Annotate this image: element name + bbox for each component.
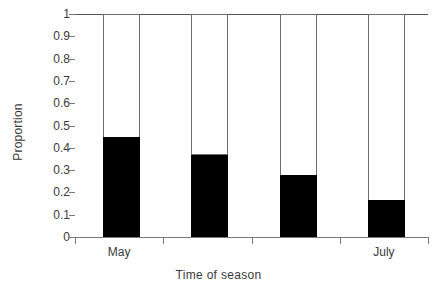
y-axis-tick-mark <box>69 192 75 193</box>
y-axis-tick-label: 0 <box>40 230 70 244</box>
y-axis-tick-mark <box>69 126 75 127</box>
y-axis-tick-mark <box>69 59 75 60</box>
x-axis-title: Time of season <box>0 268 437 282</box>
y-axis-tick-mark <box>69 148 75 149</box>
y-axis-tick-label: 0.4 <box>40 141 70 155</box>
y-axis-tick-mark <box>69 215 75 216</box>
bar-segment-lower <box>103 137 140 237</box>
y-axis-tick-label: 1 <box>40 7 70 21</box>
x-axis-tick-mark <box>163 238 164 244</box>
y-axis-tick-mark <box>69 81 75 82</box>
bar-segment-lower <box>280 175 317 237</box>
x-axis-tick-mark <box>340 238 341 244</box>
y-axis-title: Proportion <box>11 72 25 192</box>
bar-segment-upper <box>103 14 140 138</box>
x-axis-tick-mark <box>428 238 429 244</box>
y-axis-tick-label: 0.9 <box>40 29 70 43</box>
y-axis-tick-label: 0.8 <box>40 52 70 66</box>
bar-segment-upper <box>191 14 228 155</box>
x-axis-tick-label: July <box>373 245 394 259</box>
stacked-bar <box>191 14 228 237</box>
y-axis-tick-label: 0.6 <box>40 96 70 110</box>
x-axis-tick-mark <box>75 238 76 244</box>
x-axis-tick-mark <box>252 238 253 244</box>
y-axis-tick-mark <box>69 36 75 37</box>
y-axis-tick-labels: 00.10.20.30.40.50.60.70.80.91 <box>38 0 70 291</box>
bar-segment-upper <box>280 14 317 176</box>
plot-area <box>75 14 428 237</box>
y-axis-tick-mark <box>69 170 75 171</box>
y-axis-tick-label: 0.3 <box>40 163 70 177</box>
stacked-bar <box>368 14 405 237</box>
stacked-bar <box>280 14 317 237</box>
bar-segment-lower <box>368 200 405 237</box>
x-axis-tick-label: May <box>108 245 131 259</box>
y-axis-tick-mark <box>69 14 75 15</box>
chart-figure: Proportion 00.10.20.30.40.50.60.70.80.91… <box>0 0 437 291</box>
y-axis-tick-mark <box>69 103 75 104</box>
y-axis-tick-label: 0.5 <box>40 119 70 133</box>
stacked-bar <box>103 14 140 237</box>
y-axis-tick-label: 0.1 <box>40 208 70 222</box>
bar-segment-upper <box>368 14 405 201</box>
y-axis-tick-label: 0.7 <box>40 74 70 88</box>
y-axis-tick-label: 0.2 <box>40 185 70 199</box>
bar-segment-lower <box>191 155 228 238</box>
